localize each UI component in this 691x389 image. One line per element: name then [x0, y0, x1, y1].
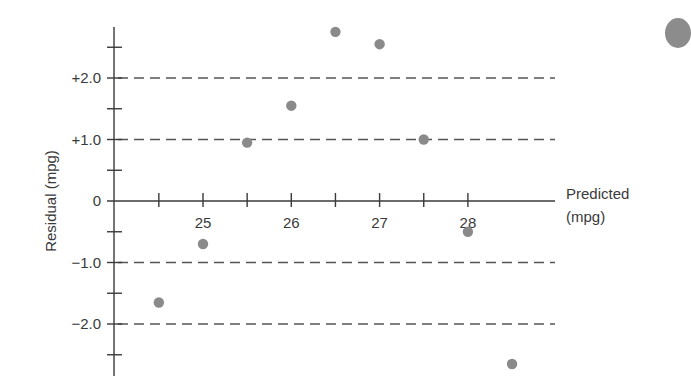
x-tick-label: 25	[195, 214, 212, 231]
data-point	[286, 100, 296, 110]
y-axis-title: Residual (mpg)	[42, 150, 59, 252]
data-point	[330, 27, 340, 37]
y-tick-label: +1.0	[71, 131, 101, 148]
x-tick-label: 26	[283, 214, 300, 231]
data-point	[154, 297, 164, 307]
x-axis-title-line1: Predicted	[566, 185, 629, 202]
y-tick-labels: +2.0+1.00−1.0−2.0	[71, 69, 101, 332]
data-point	[374, 39, 384, 49]
data-point	[463, 227, 473, 237]
data-point	[242, 137, 252, 147]
y-tick-label: −1.0	[71, 254, 101, 271]
cropped-decorative-circle	[665, 18, 691, 48]
x-axis-title-line2: (mpg)	[566, 208, 605, 225]
data-point	[419, 134, 429, 144]
data-point	[507, 359, 517, 369]
x-tick-label: 27	[371, 214, 388, 231]
x-tick-labels: 25262728	[195, 214, 477, 231]
data-point	[198, 239, 208, 249]
y-tick-label: 0	[93, 192, 101, 209]
y-tick-label: +2.0	[71, 69, 101, 86]
y-tick-label: −2.0	[71, 315, 101, 332]
